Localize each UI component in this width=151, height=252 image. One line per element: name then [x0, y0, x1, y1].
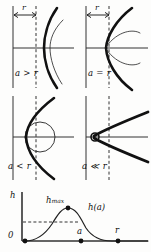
panel-dividers — [13, 6, 86, 180]
figure-container: r r a > r a = r a < r a ≪ r h 0 hmax h(a… — [0, 0, 151, 252]
plot-curve-label-h-of-a: h(a) — [88, 202, 105, 212]
panel-label-a-ll-r: a ≪ r — [82, 161, 107, 171]
plot-tick-label-r: r — [115, 225, 119, 235]
panel4-thick-caustic-lower — [94, 138, 148, 162]
panel-label-a-gt-r: a > r — [15, 68, 38, 78]
panel1-thin-wavefront — [50, 20, 63, 84]
plot-point-origin — [23, 239, 28, 244]
panel2-thin-arc-lower — [106, 49, 140, 65]
plot-ylabel-h: h — [10, 190, 15, 200]
dim-line-top-right — [87, 12, 109, 17]
plot-point-a — [79, 239, 84, 244]
plot-point-r — [116, 239, 121, 244]
panel-label-a-lt-r: a < r — [8, 161, 31, 171]
plot-h-curve — [25, 208, 148, 241]
plot-origin-label: 0 — [8, 230, 13, 240]
plot-hmax-subscript: max — [51, 197, 64, 204]
panel4-thick-caustic-upper — [94, 112, 148, 136]
dim-line-top-left — [14, 12, 36, 17]
plot-tick-label-a: a — [77, 226, 82, 236]
bottom-plot — [22, 192, 148, 243]
dim-label-r-top-left: r — [22, 3, 26, 12]
figure-drawing — [0, 0, 151, 252]
plot-point-hmax — [66, 206, 71, 211]
panel-label-a-eq-r: a = r — [88, 68, 111, 78]
plot-hmax-label: hmax — [46, 195, 64, 205]
dim-label-r-top-right: r — [95, 3, 99, 12]
